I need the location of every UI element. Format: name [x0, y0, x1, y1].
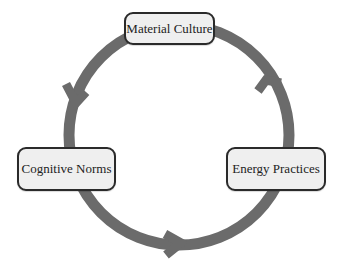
node-cognitive-norms: Cognitive Norms: [17, 147, 116, 191]
node-energy-practices: Energy Practices: [226, 147, 326, 191]
node-material-culture: Material Culture: [124, 12, 215, 45]
cycle-ring-circle: [69, 25, 289, 245]
node-label: Energy Practices: [232, 161, 319, 177]
node-label: Material Culture: [126, 21, 212, 37]
node-label: Cognitive Norms: [22, 161, 112, 177]
